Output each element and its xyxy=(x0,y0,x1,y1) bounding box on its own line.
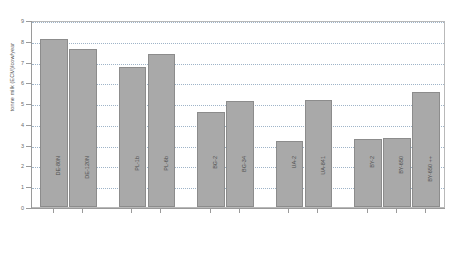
x-axis-tick xyxy=(82,208,83,213)
bar xyxy=(383,138,411,207)
x-axis-tick-label: BY-650 ++ xyxy=(427,156,434,216)
x-axis-tick xyxy=(396,208,397,213)
bar xyxy=(354,139,382,207)
bar xyxy=(69,49,97,207)
y-axis-tick-label: 3 xyxy=(0,143,24,149)
x-axis-tick xyxy=(160,208,161,213)
y-axis-tick xyxy=(26,21,31,22)
x-axis-tick xyxy=(239,208,240,213)
gridline xyxy=(32,22,444,23)
x-axis-tick xyxy=(367,208,368,213)
bar xyxy=(197,112,225,207)
bar xyxy=(226,101,254,207)
y-axis-tick xyxy=(26,146,31,147)
plot-area xyxy=(32,22,444,207)
y-axis-tick xyxy=(26,63,31,64)
y-axis-tick-label: 0 xyxy=(0,205,24,211)
y-axis-tick xyxy=(26,208,31,209)
y-axis-tick xyxy=(26,125,31,126)
x-axis-tick xyxy=(317,208,318,213)
x-axis-tick xyxy=(288,208,289,213)
y-axis-title: tonne milk (ECM)/cow/year xyxy=(9,17,15,137)
y-axis-tick-label: 1 xyxy=(0,184,24,190)
y-axis-tick xyxy=(26,187,31,188)
y-axis-line xyxy=(31,21,32,209)
gridline xyxy=(32,43,444,44)
x-axis-tick-label: UA-2 xyxy=(291,156,298,216)
plot-frame xyxy=(31,21,445,208)
x-axis-tick xyxy=(425,208,426,213)
bar xyxy=(305,100,333,207)
x-axis-tick xyxy=(131,208,132,213)
x-axis-tick xyxy=(210,208,211,213)
x-axis-tick-label: PL-6b xyxy=(163,156,170,216)
y-axis-tick xyxy=(26,166,31,167)
x-axis-tick-label: PL-1b xyxy=(134,156,141,216)
y-axis-tick xyxy=(26,83,31,84)
x-axis-tick-label: BG-2 xyxy=(212,156,219,216)
y-axis-tick-label: 2 xyxy=(0,163,24,169)
x-axis-tick-label: DE-120N xyxy=(84,156,91,216)
bar xyxy=(276,141,304,207)
bar xyxy=(40,39,68,207)
bar xyxy=(412,92,440,207)
x-axis-tick-label: BY-650 xyxy=(398,156,405,216)
x-axis-tick-label: BY-2 xyxy=(369,156,376,216)
x-axis-tick-label: UA-841 xyxy=(320,156,327,216)
bar xyxy=(148,54,176,207)
bar xyxy=(119,67,147,207)
x-axis-tick xyxy=(53,208,54,213)
chart-figure: 0123456789 DE-80NDE-120NPL-1bPL-6bBG-2BG… xyxy=(0,0,463,265)
y-axis-tick xyxy=(26,42,31,43)
x-axis-tick-label: DE-80N xyxy=(55,156,62,216)
y-axis-tick xyxy=(26,104,31,105)
x-axis-tick-label: BG-34 xyxy=(241,156,248,216)
